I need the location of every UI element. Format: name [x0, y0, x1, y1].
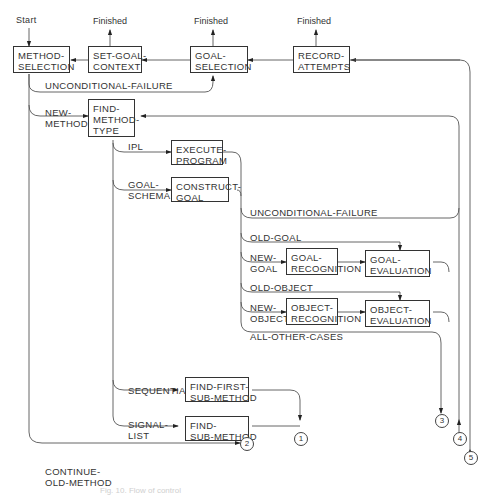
record-attempts-box: RECORD- ATTEMPTS [293, 46, 350, 73]
connector-4: 4 [453, 432, 467, 446]
object-evaluation-box: OBJECT- EVALUATION [365, 300, 430, 327]
finished-label-2: Finished [194, 16, 228, 26]
new-goal-label: NEW- GOAL [250, 252, 278, 274]
goal-selection-box: GOAL- SELECTION [190, 46, 248, 73]
unconditional-failure-label-2: UNCONDITIONAL-FAILURE [250, 207, 378, 218]
unconditional-failure-label-1: UNCONDITIONAL-FAILURE [45, 80, 173, 91]
all-other-cases-label: ALL-OTHER-CASES [250, 331, 343, 342]
find-first-sub-method-box: FIND-FIRST- SUB-METHOD [185, 377, 249, 402]
find-method-type-box: FIND- METHOD- TYPE [88, 99, 135, 137]
execute-program-box: EXECUTE- PROGRAM [171, 140, 223, 165]
set-goal-context-box: SET-GOAL- CONTEXT [88, 46, 142, 73]
figure-caption: Fig. 10. Flow of control [100, 486, 181, 495]
sequential-label: SEQUENTIAL [128, 385, 191, 396]
connector-5: 5 [464, 451, 478, 465]
connector-1: 1 [294, 432, 308, 446]
construct-goal-box: CONSTRUCT- GOAL [171, 177, 229, 202]
find-sub-method-box: FIND- SUB-METHOD [185, 416, 249, 441]
new-method-label: NEW- METHOD [45, 107, 88, 129]
object-recognition-box: OBJECT- RECOGNITION [286, 298, 338, 325]
connector-3: 3 [435, 414, 449, 428]
ipl-label: IPL [128, 141, 143, 152]
new-object-label: NEW- OBJECT [250, 302, 289, 324]
method-selection-box: METHOD- SELECTION [13, 46, 70, 73]
connector-2: 2 [240, 437, 254, 451]
old-goal-label: OLD-GOAL [250, 232, 302, 243]
finished-label-3: Finished [297, 16, 331, 26]
continue-old-method-label: CONTINUE- OLD-METHOD [45, 466, 112, 488]
start-label: Start [16, 15, 37, 26]
signal-list-label: SIGNAL- LIST [128, 419, 168, 441]
goal-schema-label: GOAL- SCHEMA [128, 179, 170, 201]
old-object-label: OLD-OBJECT [250, 282, 313, 293]
goal-recognition-box: GOAL- RECOGNITION [286, 248, 338, 275]
goal-evaluation-box: GOAL- EVALUATION [365, 250, 430, 277]
finished-label-1: Finished [93, 16, 127, 26]
